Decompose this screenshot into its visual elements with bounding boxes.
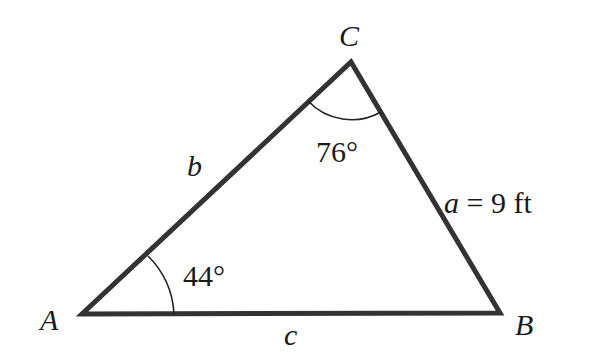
angle-label-a: 44°	[183, 259, 225, 292]
triangle-figure: C A B b c a = 9 ft 76° 44°	[0, 0, 598, 359]
side-a-value: = 9 ft	[459, 186, 532, 219]
triangle-diagram: C A B b c a = 9 ft 76° 44°	[0, 0, 598, 359]
angle-arc-c	[308, 101, 381, 120]
vertex-label-a: A	[38, 303, 59, 336]
side-label-b: b	[187, 149, 202, 182]
vertex-label-b: B	[515, 308, 533, 341]
vertex-label-c: C	[339, 19, 360, 52]
side-label-c: c	[284, 318, 297, 351]
angle-arc-a	[148, 256, 174, 314]
side-label-a: a = 9 ft	[444, 186, 532, 219]
angle-label-c: 76°	[316, 135, 358, 168]
triangle-abc	[82, 62, 500, 314]
side-a-symbol: a	[444, 186, 459, 219]
